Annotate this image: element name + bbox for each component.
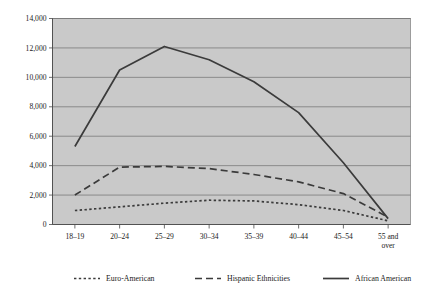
plot-area-background [53, 19, 411, 225]
plot-background-rect [53, 19, 411, 225]
x-axis-tick-label: 40–44 [289, 232, 308, 241]
y-axis-tick-label: 0 [43, 220, 47, 229]
x-axis-tick-label: 55 andover [378, 232, 399, 250]
y-axis-tick-label: 6,000 [29, 132, 46, 141]
x-axis-tick-label: 25–29 [155, 232, 174, 241]
line-chart-figure: 02,0004,0006,0008,00010,00012,00014,000 … [0, 0, 427, 302]
legend-label-euro-american: Euro-American [106, 274, 155, 283]
x-axis-tick-label: 45–54 [334, 232, 353, 241]
y-axis-tick-label: 2,000 [29, 191, 46, 200]
y-axis-tick-label: 4,000 [29, 161, 46, 170]
x-axis-tick-labels: 18–1920–2425–2930–3435–3940–4445–5455 an… [65, 232, 398, 250]
x-axis-tick-label: 35–39 [244, 232, 263, 241]
y-axis-tick-labels: 02,0004,0006,0008,00010,00012,00014,000 [26, 14, 47, 229]
y-axis-tick-label: 12,000 [26, 44, 47, 53]
chart-svg: 02,0004,0006,0008,00010,00012,00014,000 … [0, 0, 427, 302]
x-axis-tick-label: 18–19 [65, 232, 84, 241]
legend-label-african-american: African American [355, 274, 411, 283]
legend-label-hispanic-ethnicities: Hispanic Ethnicities [227, 274, 290, 283]
x-axis-tick-label: 30–34 [200, 232, 219, 241]
x-axis-tick-label: 20–24 [110, 232, 129, 241]
y-axis-tick-label: 14,000 [26, 14, 47, 23]
y-axis-tick-label: 10,000 [26, 73, 47, 82]
chart-legend: Euro-AmericanHispanic EthnicitiesAfrican… [74, 274, 411, 283]
y-axis-tick-label: 8,000 [29, 102, 46, 111]
